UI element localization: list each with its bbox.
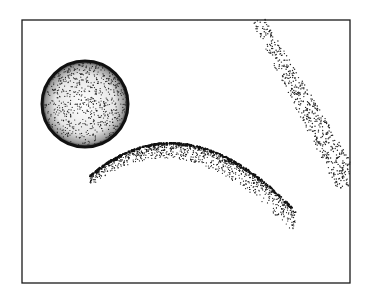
frame (22, 20, 350, 283)
sphere (42, 61, 128, 147)
stipple-illustration (0, 0, 370, 299)
